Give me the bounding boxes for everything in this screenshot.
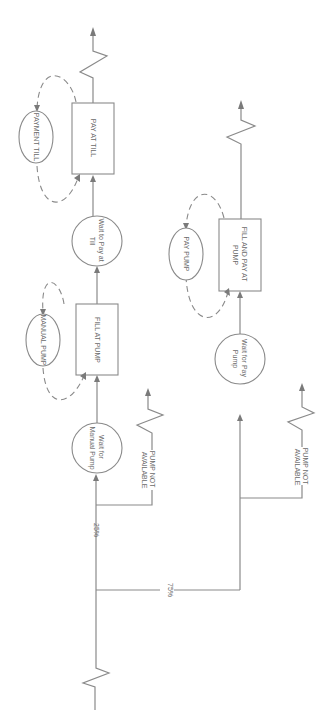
arrow-icon — [93, 474, 99, 481]
fill-and-pay-node: FILL AND PAY AT PUMP — [219, 219, 261, 291]
pay-pump-label: PAY PUMP — [183, 236, 190, 271]
arrow-icon — [237, 414, 243, 421]
branch-75: 75% — [96, 583, 240, 597]
manual-pump-label: MANUAL PUMP — [40, 314, 47, 365]
svg-text:PUMP NOT AVAILABLE: PUMP NOT AVAILABLE — [294, 448, 309, 487]
arrow-icon — [90, 175, 96, 182]
pump-na-1-line1: PUMP NOT — [149, 451, 156, 489]
pay-at-till-label: PAY AT TILL — [90, 119, 97, 158]
fill-and-pay-line2: PUMP — [232, 245, 239, 266]
process-flow-diagram: 75% 25% PUMP NOT AVAILABLE Wait for Manu… — [0, 0, 334, 721]
wait-manual-pump-line2: Manual Pump — [88, 426, 96, 469]
arrow-icon — [94, 375, 100, 382]
pump-na-1-line2: AVAILABLE — [141, 452, 148, 489]
wait-pay-till-line2: Till — [89, 237, 96, 246]
branch-25-label: 25% — [93, 523, 100, 537]
branch-75-label: 75% — [167, 583, 174, 597]
pump-na-2-line2: AVAILABLE — [294, 449, 301, 486]
payment-till-resource: PAYMENT TILL — [19, 76, 80, 202]
wait-pay-till-line1: Wait to Pay at — [97, 218, 105, 261]
exit-zigzag-lower — [227, 100, 255, 219]
wait-manual-pump-node: Wait for Manual Pump — [72, 423, 122, 473]
pump-na-2-line1: PUMP NOT — [302, 448, 309, 486]
wait-manual-pump-line1: Wait for — [98, 435, 105, 460]
pump-not-available-exit-2: PUMP NOT AVAILABLE — [240, 383, 314, 498]
wait-pay-pump-line1: Wait for Pay — [240, 339, 248, 377]
fill-at-pump-node: FILL AT PUMP — [76, 304, 118, 375]
svg-text:PUMP NOT AVAILABLE: PUMP NOT AVAILABLE — [141, 451, 156, 490]
entry-zigzag — [83, 620, 109, 710]
wait-pay-pump-node: Wait for Pay Pump — [215, 334, 265, 384]
payment-till-label: PAYMENT TILL — [33, 113, 40, 162]
fill-at-pump-label: FILL AT PUMP — [94, 317, 101, 363]
branch-25: 25% — [93, 523, 100, 537]
fill-and-pay-line1: FILL AND PAY AT — [241, 227, 248, 283]
wait-pay-pump-line2: Pump — [231, 350, 239, 368]
arrow-icon — [94, 266, 100, 273]
exit-zigzag-upper — [80, 27, 107, 103]
wait-pay-till-node: Wait to Pay at Till — [72, 216, 122, 266]
pay-at-till-node: PAY AT TILL — [72, 103, 114, 174]
arrow-icon — [237, 291, 243, 298]
